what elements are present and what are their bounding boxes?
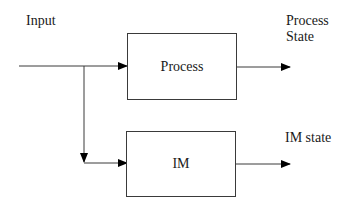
- im-block: IM: [126, 131, 236, 197]
- im-state-label: IM state: [285, 130, 331, 146]
- process-state-label: Process State: [286, 13, 329, 45]
- process-block-label: Process: [161, 59, 204, 75]
- process-state-label-line2: State: [286, 29, 329, 45]
- process-block: Process: [127, 33, 237, 100]
- block-diagram: Input Process IM Process State IM state: [0, 0, 358, 208]
- input-label: Input: [26, 13, 56, 29]
- im-block-label: IM: [172, 156, 189, 172]
- process-state-label-line1: Process: [286, 13, 329, 29]
